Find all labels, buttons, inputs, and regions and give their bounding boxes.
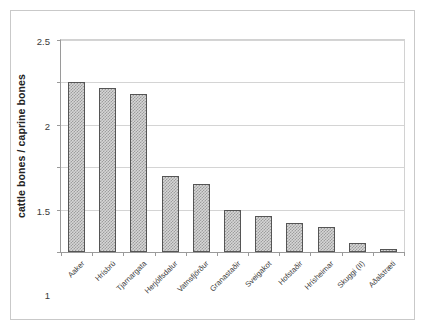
- bar[interactable]: [380, 249, 397, 252]
- bar-slot: [123, 40, 154, 252]
- bar-slot: [373, 40, 404, 252]
- plot-area: 00.511.522.5: [60, 39, 405, 253]
- bar-slot: [92, 40, 123, 252]
- bar-slot: [217, 40, 248, 252]
- bar-slot: [61, 40, 92, 252]
- bar[interactable]: [68, 82, 85, 252]
- y-axis-tick-label: 2: [45, 120, 50, 131]
- y-axis-tick-label: 1: [45, 290, 50, 301]
- x-axis-tick: [61, 252, 62, 256]
- bar-slot: [248, 40, 279, 252]
- bar-slot: [310, 40, 341, 252]
- bar[interactable]: [130, 94, 147, 252]
- y-axis-title-text: cattle bones / caprine bones: [15, 74, 27, 218]
- bar-slot: [342, 40, 373, 252]
- y-axis-title: cattle bones / caprine bones: [13, 39, 29, 253]
- y-axis-tick-label: 2.5: [37, 36, 50, 47]
- y-axis-tick-label: 1.5: [37, 205, 50, 216]
- bar-slot: [186, 40, 217, 252]
- figure-canvas: cattle bones / caprine bones 00.511.522.…: [0, 0, 428, 332]
- bar[interactable]: [99, 88, 116, 252]
- bar-slot: [279, 40, 310, 252]
- bar-slot: [155, 40, 186, 252]
